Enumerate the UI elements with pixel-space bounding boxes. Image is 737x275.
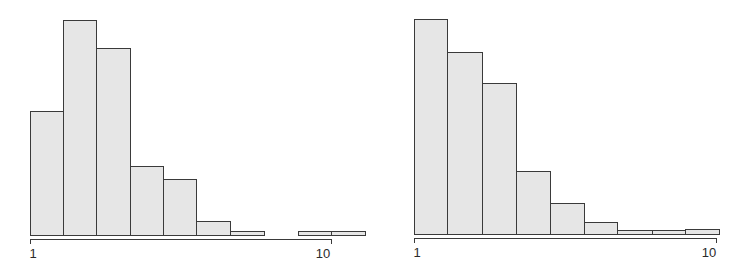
right-tick (716, 238, 717, 243)
right-bar (550, 203, 585, 235)
left-bar (63, 20, 97, 236)
left-bar (163, 179, 197, 236)
right-tick-label: 10 (702, 245, 716, 260)
left-bar (30, 111, 64, 236)
left-bar (196, 221, 231, 236)
left-x-axis (30, 239, 331, 240)
left-tick-label: 1 (29, 246, 36, 261)
left-bar (230, 231, 265, 236)
left-bar (130, 166, 164, 236)
right-tick (414, 238, 415, 243)
right-bar (617, 230, 653, 235)
right-tick-label: 1 (413, 245, 420, 260)
right-bar (584, 222, 618, 235)
left-bar (96, 48, 131, 236)
left-bar (331, 231, 366, 236)
left-tick (30, 239, 31, 244)
right-bar (516, 171, 551, 235)
right-bar (447, 52, 483, 235)
right-bar (482, 83, 517, 235)
right-bar (414, 19, 448, 235)
left-bar (298, 231, 332, 236)
right-bar (685, 229, 720, 235)
right-bar (652, 230, 686, 235)
left-tick-label: 10 (316, 246, 330, 261)
left-tick (331, 239, 332, 244)
right-x-axis (414, 238, 716, 239)
